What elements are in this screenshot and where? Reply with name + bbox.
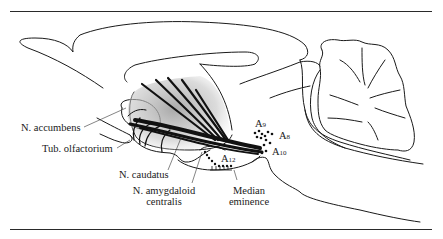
hypothalamus-outline	[178, 156, 260, 170]
brain-drawing	[0, 0, 443, 239]
label-a10: A10	[272, 146, 287, 159]
label-median-line1: Median	[224, 185, 274, 196]
label-n-caudatus: N. caudatus	[119, 169, 169, 180]
cerebellum-outline	[310, 40, 414, 151]
label-median-line2: eminence	[224, 196, 274, 207]
label-a9: A9	[255, 118, 266, 131]
label-a12: A12	[221, 153, 236, 166]
label-n-accumbens: N. accumbens	[21, 122, 80, 133]
brain-dopamine-pathways-figure: N. accumbens Tub. olfactorium N. caudatu…	[0, 0, 443, 239]
label-a8: A8	[279, 130, 290, 143]
label-tub-olfactorium: Tub. olfactorium	[42, 143, 113, 154]
label-amygdaloid-line2: centralis	[130, 196, 198, 207]
label-amygdaloid-line1: N. amygdaloid	[130, 185, 198, 196]
label-n-amygdaloid-centralis: N. amygdaloid centralis	[130, 185, 198, 207]
label-median-eminence: Median eminence	[224, 185, 274, 207]
brainstem-outline	[252, 157, 420, 222]
cerebrum-outline	[20, 22, 308, 88]
